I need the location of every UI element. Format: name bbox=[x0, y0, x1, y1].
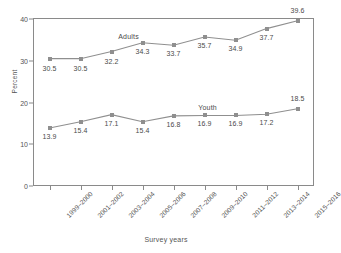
data-point-marker bbox=[110, 50, 114, 54]
data-point-label: 30.5 bbox=[73, 65, 87, 72]
data-point-marker bbox=[110, 113, 114, 117]
x-tick-label: 2003–2004 bbox=[126, 190, 155, 219]
y-tick-mark bbox=[29, 144, 33, 145]
data-point-label: 32.2 bbox=[104, 58, 118, 65]
data-point-label: 37.7 bbox=[259, 34, 273, 41]
data-point-label: 15.4 bbox=[135, 127, 149, 134]
data-point-label: 34.3 bbox=[135, 48, 149, 55]
series-label-youth: Youth bbox=[198, 104, 217, 111]
data-point-marker bbox=[265, 112, 269, 116]
x-tick-label: 1999–2000 bbox=[64, 190, 93, 219]
data-point-marker bbox=[203, 35, 207, 39]
data-point-label: 39.6 bbox=[290, 7, 304, 14]
y-tick-mark bbox=[29, 186, 33, 187]
data-point-marker bbox=[234, 113, 238, 117]
data-point-marker bbox=[48, 57, 52, 61]
data-point-marker bbox=[296, 107, 300, 111]
data-point-label: 16.8 bbox=[166, 121, 180, 128]
x-tick-mark bbox=[50, 186, 51, 190]
x-tick-label: 2015–2016 bbox=[312, 190, 341, 219]
data-point-marker bbox=[172, 114, 176, 118]
x-tick-mark bbox=[298, 186, 299, 190]
data-point-label: 15.4 bbox=[73, 127, 87, 134]
x-tick-mark bbox=[81, 186, 82, 190]
data-point-marker bbox=[48, 126, 52, 130]
x-tick-label: 2001–2002 bbox=[95, 190, 124, 219]
y-tick-mark bbox=[29, 102, 33, 103]
x-tick-mark bbox=[236, 186, 237, 190]
series-label-adults: Adults bbox=[118, 33, 139, 40]
data-point-marker bbox=[296, 19, 300, 23]
y-tick-mark bbox=[29, 19, 33, 20]
data-point-label: 17.1 bbox=[104, 120, 118, 127]
data-point-label: 30.5 bbox=[42, 65, 56, 72]
data-point-label: 33.7 bbox=[166, 50, 180, 57]
data-point-label: 18.5 bbox=[290, 95, 304, 102]
data-point-marker bbox=[79, 57, 83, 61]
data-point-marker bbox=[203, 113, 207, 117]
data-point-label: 13.9 bbox=[42, 133, 56, 140]
x-tick-mark bbox=[205, 186, 206, 190]
x-tick-mark bbox=[143, 186, 144, 190]
data-point-marker bbox=[172, 43, 176, 47]
data-point-label: 34.9 bbox=[228, 45, 242, 52]
data-point-label: 16.9 bbox=[197, 120, 211, 127]
x-tick-label: 2007–2008 bbox=[188, 190, 217, 219]
x-tick-label: 2005–2006 bbox=[157, 190, 186, 219]
x-tick-mark bbox=[112, 186, 113, 190]
x-tick-mark bbox=[267, 186, 268, 190]
data-point-marker bbox=[265, 27, 269, 31]
x-tick-mark bbox=[174, 186, 175, 190]
data-point-marker bbox=[234, 38, 238, 42]
data-point-marker bbox=[79, 120, 83, 124]
x-tick-label: 2009–2010 bbox=[219, 190, 248, 219]
data-point-label: 16.9 bbox=[228, 120, 242, 127]
data-point-marker bbox=[141, 41, 145, 45]
data-point-marker bbox=[141, 120, 145, 124]
data-point-label: 35.7 bbox=[197, 42, 211, 49]
data-point-label: 17.2 bbox=[259, 119, 273, 126]
x-tick-label: 2013–2014 bbox=[281, 190, 310, 219]
x-tick-label: 2011–2012 bbox=[250, 190, 279, 219]
x-axis-title: Survey years bbox=[0, 236, 332, 243]
y-tick-mark bbox=[29, 60, 33, 61]
